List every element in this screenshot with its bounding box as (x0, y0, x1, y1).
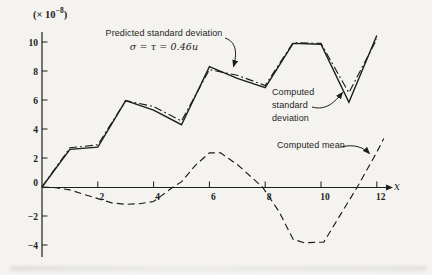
predicted-sd-label-text: Predicted standard deviation (104, 27, 224, 40)
scan-artifact (10, 266, 426, 271)
y-tick-label: 0 (33, 178, 38, 188)
predicted-sd-formula-var: u (192, 41, 198, 52)
series-predicted-standard-deviation (42, 39, 377, 187)
y-tick-label: 8 (33, 67, 38, 77)
x-axis-label: x (394, 180, 400, 192)
y-tick-label: 10 (29, 38, 39, 48)
computed-mean-label: Computed mean (277, 139, 345, 152)
computed-sd-label-line1: Computed (272, 86, 314, 99)
computed-sd-label-line3: deviation (272, 112, 314, 125)
y-tick-label: −4 (28, 241, 38, 251)
x-tick-label: 6 (211, 192, 216, 202)
y-tick-label: −2 (28, 212, 38, 222)
x-axis-arrowhead (386, 185, 393, 191)
computed-sd-label-line2: standard (272, 99, 314, 112)
x-tick-label: 12 (376, 192, 386, 202)
y-tick-label: 2 (33, 154, 38, 164)
computed-sd-label: Computed standard deviation (272, 86, 314, 125)
figure-canvas: (× 10−8) 246810121086420−2−4 Predicted s… (0, 0, 432, 275)
x-tick-label: 10 (320, 192, 330, 202)
y-tick-label: 4 (33, 125, 38, 135)
predicted-sd-arrow (225, 38, 236, 67)
predicted-sd-label: Predicted standard deviation σ = τ = 0.4… (104, 27, 224, 53)
computed-mean-arrow (341, 146, 370, 154)
predicted-sd-formula-text: σ = τ = 0.46 (130, 41, 192, 52)
predicted-sd-formula: σ = τ = 0.46u (104, 40, 224, 53)
computed-sd-arrow (312, 93, 343, 108)
series-computed-standard-deviation (42, 36, 377, 188)
y-tick-label: 6 (33, 96, 38, 106)
